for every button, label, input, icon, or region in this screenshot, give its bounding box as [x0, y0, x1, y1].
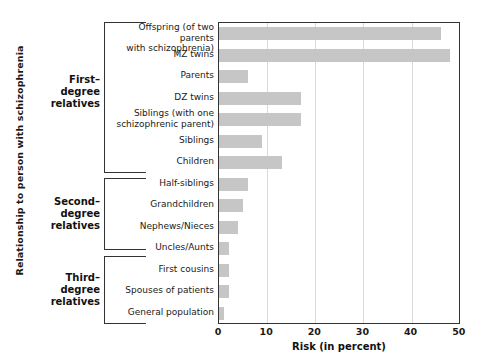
category-label: Children [110, 156, 214, 167]
category-label: Spouses of patients [110, 285, 214, 296]
y-axis-label: Relationship to person with schizophreni… [0, 0, 38, 320]
bar-series [219, 23, 459, 323]
bar [219, 27, 441, 40]
x-tick-label: 0 [215, 326, 222, 337]
bar [219, 92, 301, 105]
bar [219, 199, 243, 212]
bar [219, 70, 248, 83]
bar [219, 49, 450, 62]
x-tick-label: 40 [404, 326, 417, 337]
category-label: First cousins [110, 264, 214, 275]
category-label: Grandchildren [110, 199, 214, 210]
group-label-third-degree: Third– degree relatives [42, 272, 100, 308]
bar [219, 307, 224, 320]
x-tick-label: 20 [308, 326, 321, 337]
y-axis-label-text: Relationship to person with schizophreni… [14, 45, 25, 275]
category-label: DZ twins [110, 92, 214, 103]
category-label: Siblings [110, 135, 214, 146]
group-label-second-degree: Second– degree relatives [42, 196, 100, 232]
x-tick-label: 50 [452, 326, 465, 337]
bar [219, 264, 229, 277]
x-tick-label: 30 [356, 326, 369, 337]
bar [219, 178, 248, 191]
bar [219, 156, 282, 169]
bar [219, 221, 238, 234]
category-label: Half-siblings [110, 178, 214, 189]
x-tick-label: 10 [260, 326, 273, 337]
category-label: Nephews/Nieces [110, 221, 214, 232]
bar [219, 113, 301, 126]
bar [219, 285, 229, 298]
category-label: Siblings (with one schizophrenic parent) [110, 108, 214, 129]
group-label-first-degree: First– degree relatives [42, 74, 100, 110]
bar [219, 135, 262, 148]
x-axis-ticks: 01020304050 [218, 326, 460, 340]
category-label: MZ twins [110, 49, 214, 60]
x-axis-label: Risk (in percent) [218, 341, 460, 352]
category-label: Uncles/Aunts [110, 242, 214, 253]
category-label: General population [110, 307, 214, 318]
bar [219, 242, 229, 255]
category-label: Parents [110, 70, 214, 81]
category-label-column: Offspring (of two parents with schizophr… [112, 22, 216, 324]
plot-area [218, 22, 460, 324]
